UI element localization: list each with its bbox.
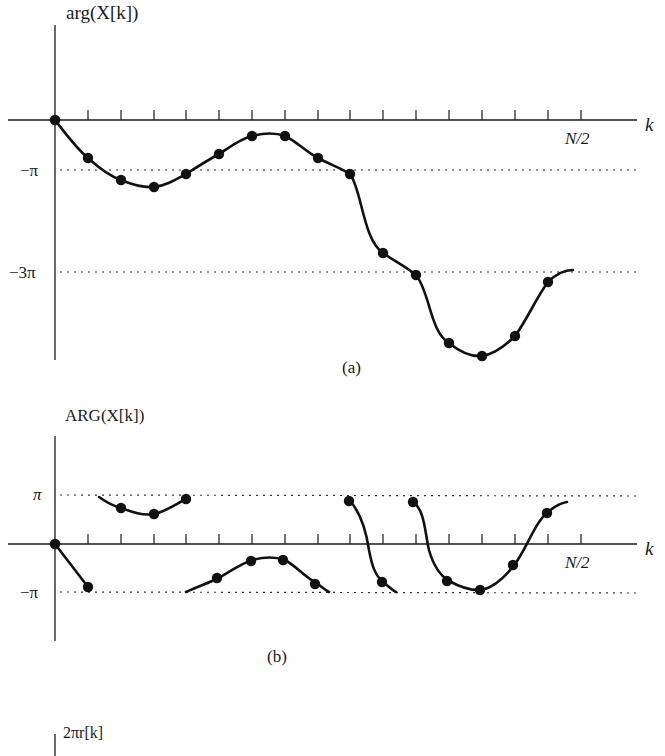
panel-c: 2πr[k] — [55, 724, 103, 756]
b-point-k15 — [542, 508, 552, 518]
b-segment-4 — [350, 501, 396, 592]
b-segment-2 — [99, 497, 186, 515]
a-x-ticks — [88, 110, 581, 120]
b-caption: (b) — [267, 647, 287, 666]
a-x-label: k — [645, 114, 654, 135]
b-point-k1 — [83, 582, 93, 592]
b-point-k3 — [149, 509, 159, 519]
b-point-k12 — [442, 576, 452, 586]
a-point-k13 — [477, 351, 487, 361]
a-neg-3pi-label: −3π — [9, 263, 36, 282]
b-n2-label: N/2 — [564, 553, 590, 572]
a-point-k1 — [83, 153, 93, 163]
a-point-k15 — [543, 277, 553, 287]
b-point-k11 — [408, 497, 418, 507]
a-point-k8 — [313, 153, 323, 163]
b-y-label: ARG(X[k]) — [65, 406, 144, 425]
a-point-k0 — [50, 115, 60, 125]
a-markers — [50, 115, 553, 361]
b-point-k4 — [181, 494, 191, 504]
b-point-k5 — [212, 573, 222, 583]
a-neg-pi-label: −π — [20, 161, 39, 180]
a-point-k5 — [214, 149, 224, 159]
figure: arg(X[k]) −π −3π k N/2 (a) — [0, 0, 665, 756]
b-point-k9 — [344, 496, 354, 506]
b-point-k0 — [50, 539, 60, 549]
a-point-k4 — [181, 169, 191, 179]
a-point-k10 — [378, 248, 388, 258]
b-neg-pi-label: −π — [20, 583, 39, 602]
b-point-k13 — [475, 585, 485, 595]
b-point-k7 — [278, 555, 288, 565]
b-point-k10 — [377, 577, 387, 587]
b-x-ticks — [88, 534, 581, 544]
b-x-label: k — [645, 538, 654, 559]
a-n2-label: N/2 — [564, 129, 590, 148]
a-point-k12 — [444, 338, 454, 348]
a-point-k11 — [411, 270, 421, 280]
b-point-k6 — [246, 556, 256, 566]
a-point-k3 — [149, 182, 159, 192]
b-segment-1 — [55, 544, 88, 587]
a-point-k2 — [116, 175, 126, 185]
b-pi-label: π — [33, 485, 42, 504]
a-point-k7 — [280, 131, 290, 141]
b-point-k8 — [310, 579, 320, 589]
a-point-k14 — [510, 331, 520, 341]
a-point-k6 — [247, 131, 257, 141]
panel-a: arg(X[k]) −π −3π k N/2 (a) — [8, 2, 654, 377]
a-point-k9 — [345, 169, 355, 179]
b-segment-3 — [186, 557, 329, 592]
b-neg-pi-line — [60, 592, 640, 593]
c-y-label: 2πr[k] — [63, 724, 103, 741]
panel-b: ARG(X[k]) π −π k N/2 (b) — [8, 406, 654, 666]
b-point-k2 — [116, 503, 126, 513]
a-caption: (a) — [342, 358, 361, 377]
a-y-label: arg(X[k]) — [66, 2, 138, 24]
b-point-k14 — [508, 560, 518, 570]
b-pi-line — [60, 495, 640, 496]
